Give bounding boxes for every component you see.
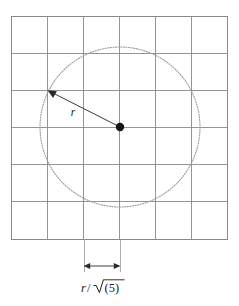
dimension-arrow-head-left	[84, 263, 91, 269]
dimension-arrow-head-right	[114, 263, 121, 269]
diagram-canvas: r r / (5)	[0, 0, 239, 306]
circle-center-dot	[116, 123, 124, 131]
radius-arrow-shaft	[52, 92, 121, 127]
radical-sign-icon	[94, 280, 104, 293]
radius-arrow	[48, 90, 120, 127]
figure-root: r r / (5)	[0, 0, 239, 306]
dimension-label-slash: /	[87, 281, 91, 295]
radius-label: r	[71, 106, 76, 118]
dimension-label-numerator: r	[81, 281, 86, 295]
cell-width-dimension	[84, 239, 121, 272]
dimension-label: r / (5)	[81, 280, 125, 295]
dimension-label-operand: (5)	[105, 281, 120, 295]
